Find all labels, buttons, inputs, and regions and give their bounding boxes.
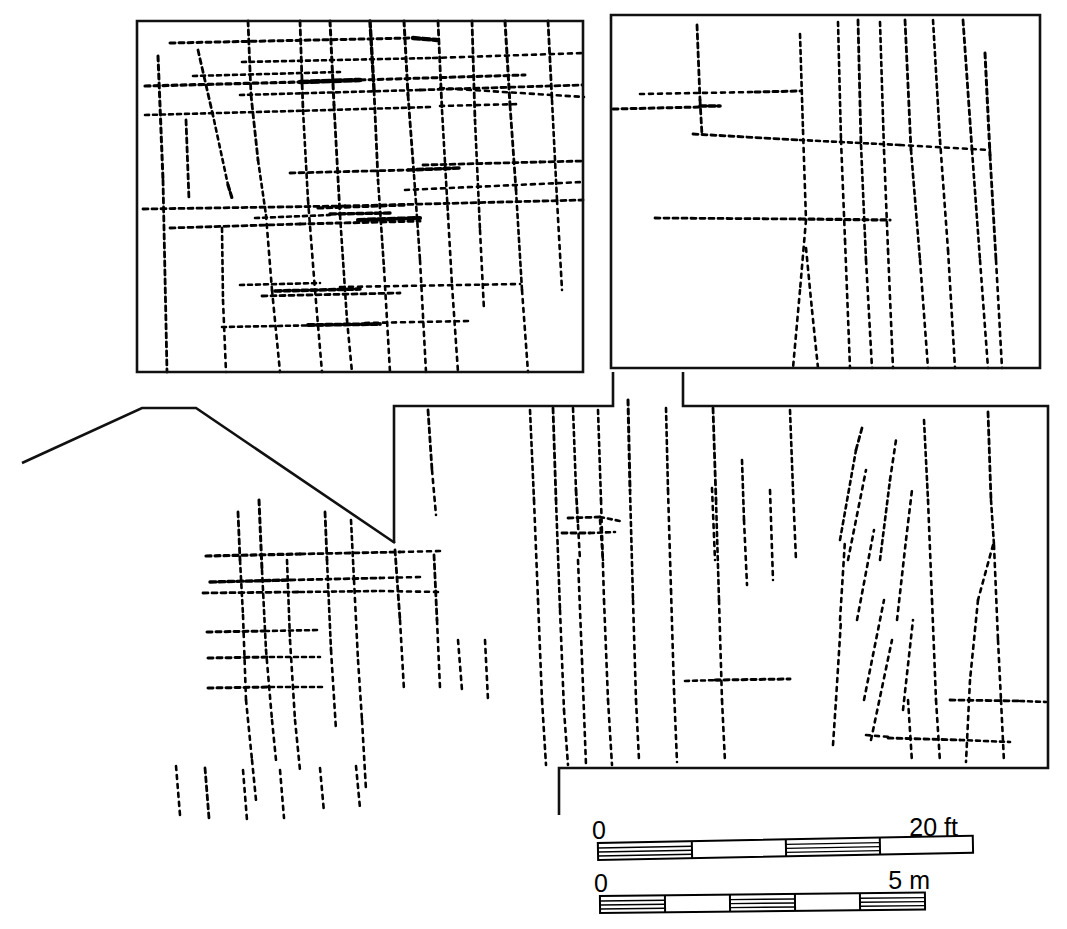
metric-scale-max-label: 5 m [888, 866, 930, 894]
site-plan-canvas: 0 20 ft [0, 0, 1067, 929]
metric-scale-bar [600, 893, 925, 913]
site-plan-figure: 0 20 ft [0, 0, 1067, 929]
imperial-scale-max-label: 20 ft [909, 813, 958, 841]
metric-scale-zero-label: 0 [594, 869, 608, 897]
imperial-scale-zero-label: 0 [592, 816, 606, 844]
